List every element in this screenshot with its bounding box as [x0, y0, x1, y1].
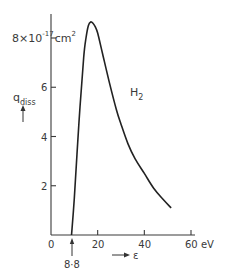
y-tick-label: 2 — [41, 181, 47, 192]
y-tick-label: 4 — [41, 132, 47, 143]
x-axis-arrow-head — [124, 253, 130, 258]
x-ticks: 0204060 eV — [48, 230, 214, 250]
y-ticks: 246 — [41, 38, 56, 192]
y-top-tick-label: 8×10-17cm2 — [12, 30, 76, 45]
x-tick-label: 0 — [48, 239, 54, 250]
x-axis-label: ε — [133, 250, 138, 261]
x-tick-label: 60 eV — [185, 239, 214, 250]
series-line-h2 — [72, 22, 172, 235]
y-axis-label: qdiss — [13, 91, 36, 107]
x-tick-label: 20 — [92, 239, 105, 250]
threshold-arrow-head — [70, 238, 74, 244]
curve-label-h2: H2 — [130, 86, 143, 102]
x-tick-label: 40 — [138, 239, 151, 250]
threshold-label: 8·8 — [64, 259, 80, 270]
chart-canvas: 0204060 eV 246 8×10-17cm2 qdiss 8·8 ε H2 — [0, 0, 225, 275]
series-points-h2 — [71, 22, 171, 235]
y-tick-label: 6 — [41, 82, 47, 93]
